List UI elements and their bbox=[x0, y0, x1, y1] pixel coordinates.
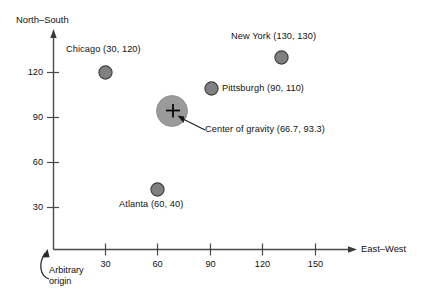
y-axis-title: North–South bbox=[16, 14, 69, 25]
point-label-center-of-gravity: Center of gravity (66.7, 93.3) bbox=[205, 124, 325, 135]
arbitrary-origin-label-line1: Arbitrary bbox=[49, 265, 84, 277]
point-label-chicago: Chicago (30, 120) bbox=[66, 44, 141, 55]
scatter-plot-figure: North–South East–West 120 90 60 30 30 60… bbox=[0, 0, 427, 297]
x-axis bbox=[54, 246, 358, 252]
y-tick-label-60: 60 bbox=[16, 157, 43, 167]
x-axis-title: East–West bbox=[361, 243, 406, 254]
point-label-pittsburgh: Pittsburgh (90, 110) bbox=[222, 83, 304, 94]
data-point-pittsburgh bbox=[205, 82, 218, 95]
x-tick-label-150: 150 bbox=[303, 259, 328, 269]
point-label-atlanta: Atlanta (60, 40) bbox=[119, 199, 183, 210]
x-tick-label-120: 120 bbox=[250, 259, 275, 269]
data-point-new-york bbox=[275, 51, 288, 64]
y-axis bbox=[50, 29, 56, 250]
point-label-new-york: New York (130, 130) bbox=[231, 31, 316, 42]
y-tick-label-30: 30 bbox=[16, 202, 43, 212]
x-tick-label-30: 30 bbox=[93, 259, 118, 269]
data-point-chicago bbox=[99, 66, 112, 79]
x-tick-label-90: 90 bbox=[198, 259, 223, 269]
arbitrary-origin-label-line2: origin bbox=[49, 276, 71, 288]
y-tick-label-120: 120 bbox=[16, 67, 43, 77]
x-tick-label-60: 60 bbox=[145, 259, 170, 269]
data-point-atlanta bbox=[151, 183, 164, 196]
y-tick-label-90: 90 bbox=[16, 112, 43, 122]
